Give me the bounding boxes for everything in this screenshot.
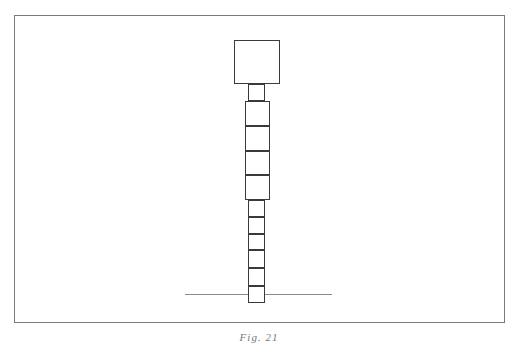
figure-caption: Fig. 21 — [0, 331, 518, 343]
narrow-segment-box — [248, 200, 265, 217]
wide-segment-box — [245, 126, 270, 151]
narrow-segment-box — [248, 250, 265, 268]
narrow-segment-box — [248, 268, 265, 286]
wide-segment-box — [245, 101, 270, 126]
column-head-box — [234, 40, 280, 84]
column-neck-box — [248, 84, 265, 101]
wide-segment-box — [245, 151, 270, 175]
narrow-segment-box — [248, 286, 265, 303]
narrow-segment-box — [248, 234, 265, 250]
wide-segment-box — [245, 175, 270, 200]
narrow-segment-box — [248, 217, 265, 234]
